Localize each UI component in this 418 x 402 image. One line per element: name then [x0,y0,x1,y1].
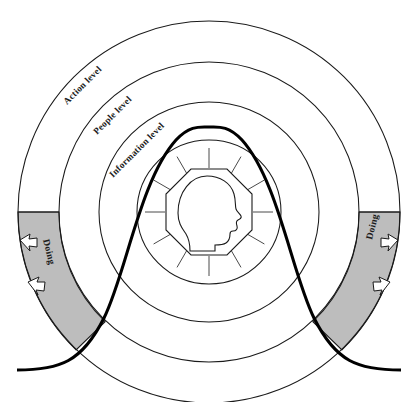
hub-ray [231,250,241,267]
hub-ray [154,234,171,244]
label-action-level: Action level [61,64,103,106]
hub-ray [247,234,264,244]
hub-group [145,148,273,276]
level-labels: Action level People level Information le… [61,64,166,179]
hub-ray [177,157,187,174]
levels-diagram: Action level People level Information le… [0,0,418,402]
hub-ray [231,157,241,174]
hub-ray [247,180,264,190]
label-people-level: People level [91,94,133,136]
hub-ray [154,180,171,190]
diagram-canvas: Action level People level Information le… [0,0,418,402]
hub-ray [177,250,187,267]
